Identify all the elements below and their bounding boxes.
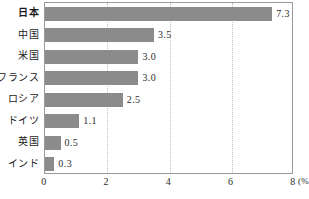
category-label: ロシア (8, 88, 40, 110)
bar-row: 0.5 (45, 132, 292, 154)
x-tick-label: 0 (41, 176, 46, 187)
bar (45, 7, 272, 21)
axis-unit-label: (%) (298, 176, 309, 186)
x-tick-label: 4 (166, 176, 171, 187)
category-label: フランス (0, 67, 39, 89)
bar-row: 1.1 (45, 111, 292, 133)
bar (45, 93, 123, 107)
bar-value-label: 2.5 (127, 92, 141, 108)
category-label: 日本 (18, 2, 39, 24)
bar-row: 0.3 (45, 154, 292, 176)
x-tick-label: 2 (104, 176, 109, 187)
bar (45, 28, 154, 42)
value-axis: 02468(%) (0, 176, 309, 196)
category-label: ドイツ (8, 110, 40, 132)
bar-value-label: 1.1 (83, 113, 97, 129)
category-label: 中国 (18, 24, 39, 46)
category-label: インド (8, 153, 40, 175)
bar-value-label: 7.3 (276, 6, 290, 22)
bar-value-label: 0.3 (58, 156, 72, 172)
bar-row: 7.3 (45, 3, 292, 25)
bar-value-label: 3.0 (142, 70, 156, 86)
bars-layer: 7.33.53.03.02.51.10.50.3 (45, 3, 292, 173)
bar (45, 157, 54, 171)
bar (45, 136, 61, 150)
x-tick-label: 6 (228, 176, 233, 187)
bar-value-label: 0.5 (65, 135, 79, 151)
horizontal-bar-chart: 日本中国米国フランスロシアドイツ英国インド 7.33.53.03.02.51.1… (0, 0, 309, 199)
bar-row: 3.5 (45, 25, 292, 47)
category-label: 米国 (18, 45, 39, 67)
bar (45, 50, 138, 64)
bar-row: 3.0 (45, 68, 292, 90)
x-tick-label: 8 (290, 176, 295, 187)
bar (45, 114, 79, 128)
bar-value-label: 3.0 (142, 49, 156, 65)
plot-area: 7.33.53.03.02.51.10.50.3 (44, 2, 293, 174)
category-axis: 日本中国米国フランスロシアドイツ英国インド (0, 2, 41, 174)
category-label: 英国 (18, 131, 39, 153)
bar (45, 71, 138, 85)
bar-row: 2.5 (45, 89, 292, 111)
bar-value-label: 3.5 (158, 27, 172, 43)
bar-row: 3.0 (45, 46, 292, 68)
